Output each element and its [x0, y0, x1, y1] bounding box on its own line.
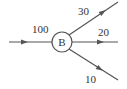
- edge-label-upper: 30: [78, 6, 89, 17]
- edge-outgoing-middle: [72, 40, 118, 45]
- edge-label-lower: 10: [85, 74, 96, 85]
- edge-label-middle: 20: [98, 27, 109, 38]
- edge-incoming: [9, 40, 52, 45]
- edge-label-incoming: 100: [32, 24, 49, 35]
- flow-diagram: B 100 30 20 10: [0, 0, 127, 89]
- edge-outgoing-upper: [69, 2, 118, 35]
- node-label: B: [52, 37, 72, 48]
- arrow-right-icon: [21, 40, 28, 45]
- arrow-right-icon: [97, 40, 104, 45]
